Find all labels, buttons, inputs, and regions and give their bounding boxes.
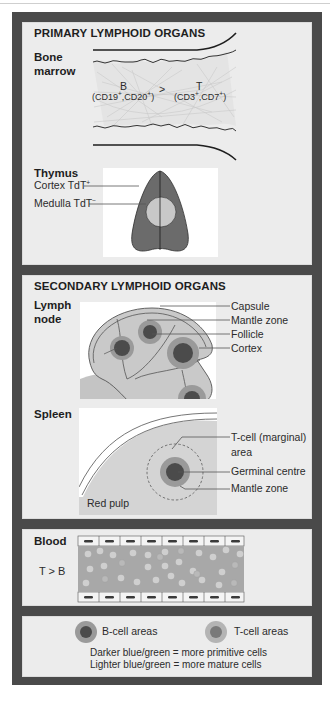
medulla-tdt-text: Medulla TdT bbox=[34, 197, 92, 209]
medulla-tdt-sup: − bbox=[92, 197, 96, 204]
thymus-medulla-label: Medulla TdT− bbox=[34, 197, 96, 209]
spleen-callout-tcell-line1: T-cell (marginal) bbox=[231, 431, 306, 443]
legend-b-cell-label: B-cell areas bbox=[102, 625, 157, 637]
figure-frame: PRIMARY LYMPHOID ORGANS Bone marrow B bbox=[12, 12, 322, 685]
t-cell-area-swatch-icon bbox=[205, 621, 227, 643]
legend-note-mature: Lighter blue/green = more mature cells bbox=[90, 659, 261, 670]
spleen-red-pulp-label: Red pulp bbox=[87, 497, 129, 509]
top-rule bbox=[0, 3, 330, 4]
thymus-cortex-label: Cortex TdT+ bbox=[34, 179, 90, 191]
legend-note-primitive: Darker blue/green = more primitive cells bbox=[90, 647, 267, 658]
blood-vessel-diagram bbox=[22, 529, 312, 606]
thymus-diagram bbox=[22, 22, 312, 265]
spleen-callout-tcell-line2: area bbox=[231, 446, 252, 458]
secondary-lymphoid-panel: SECONDARY LYMPHOID ORGANS Lymph node bbox=[22, 275, 312, 519]
cortex-tdt-sup: + bbox=[86, 179, 90, 186]
legend-panel: B-cell areas T-cell areas Darker blue/gr… bbox=[22, 616, 312, 677]
blood-panel: Blood T > B bbox=[22, 529, 312, 606]
b-cell-area-swatch-icon bbox=[75, 621, 97, 643]
spleen-callout-germinal-centre: Germinal centre bbox=[231, 465, 306, 477]
legend-t-cell-label: T-cell areas bbox=[234, 625, 288, 637]
primary-lymphoid-panel: PRIMARY LYMPHOID ORGANS Bone marrow B bbox=[22, 22, 312, 265]
cortex-tdt-text: Cortex TdT bbox=[34, 179, 86, 191]
spleen-callout-mantle-zone: Mantle zone bbox=[231, 482, 288, 494]
